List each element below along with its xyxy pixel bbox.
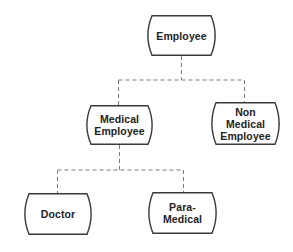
node-non-medical-employee: Non Medical Employee <box>207 102 284 145</box>
node-para-medical: Para- Medical <box>144 192 221 234</box>
node-label: Medical Employee <box>94 113 144 137</box>
node-label: Employee <box>156 30 206 42</box>
node-doctor: Doctor <box>20 193 96 235</box>
node-label: Non Medical Employee <box>220 106 270 142</box>
node-medical-employee: Medical Employee <box>82 105 157 145</box>
node-label: Para- Medical <box>163 201 202 225</box>
node-employee: Employee <box>143 15 220 56</box>
node-label: Doctor <box>41 208 75 220</box>
class-hierarchy-diagram: Employee Medical Employee Non Medical Em… <box>0 0 293 252</box>
